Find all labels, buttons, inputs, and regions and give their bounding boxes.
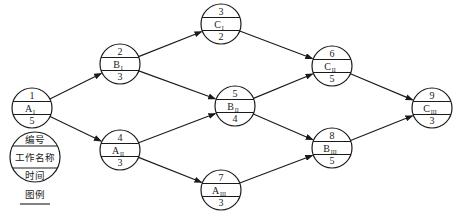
- node-id: 2: [118, 46, 123, 57]
- network-diagram: 1AI52BI33CI24AII35BII46CII57AIII38BIII59…: [0, 0, 470, 218]
- legend-caption: 图例: [25, 189, 45, 200]
- node-time: 3: [118, 157, 123, 168]
- legend-time-label: 时间: [25, 170, 45, 181]
- node-time: 4: [233, 113, 238, 124]
- arrow-3-to-6: [240, 31, 313, 58]
- arrow-4-to-7: [139, 157, 202, 182]
- node-3: 3CI2: [201, 4, 241, 44]
- arrow-5-to-8: [253, 114, 312, 140]
- node-2: 2BI3: [100, 44, 140, 84]
- arrow-5-to-6: [253, 74, 312, 98]
- arrow-7-to-8: [240, 155, 313, 182]
- node-5: 5BII4: [215, 86, 255, 126]
- node-8: 8BIII5: [312, 128, 352, 168]
- node-4: 4AII3: [100, 130, 140, 170]
- node-time: 5: [30, 115, 35, 126]
- arrow-1-to-2: [50, 73, 101, 99]
- node-id: 9: [430, 90, 435, 101]
- legend-work-name-label: 工作名称: [15, 152, 55, 163]
- legend: 编号 工作名称 时间 图例: [10, 132, 60, 204]
- arrow-2-to-5: [139, 71, 215, 99]
- node-time: 3: [118, 71, 123, 82]
- node-id: 8: [330, 130, 335, 141]
- node-9: 9CIII3: [412, 88, 452, 128]
- node-id: 5: [233, 88, 238, 99]
- node-id: 4: [118, 132, 123, 143]
- node-id: 7: [219, 172, 224, 183]
- node-time: 5: [330, 155, 335, 166]
- node-time: 2: [219, 31, 224, 42]
- nodes: 1AI52BI33CI24AII35BII46CII57AIII38BIII59…: [12, 4, 452, 210]
- node-id: 3: [219, 6, 224, 17]
- node-time: 3: [430, 115, 435, 126]
- node-7: 7AIII3: [201, 170, 241, 210]
- node-id: 1: [30, 90, 35, 101]
- node-time: 5: [330, 73, 335, 84]
- legend-id-label: 编号: [25, 134, 45, 145]
- node-6: 6CII5: [312, 46, 352, 86]
- node-time: 3: [219, 197, 224, 208]
- arrow-2-to-3: [139, 32, 202, 57]
- arrow-6-to-9: [350, 74, 412, 100]
- arrow-8-to-9: [351, 116, 413, 141]
- arrow-4-to-5: [139, 114, 216, 143]
- node-1: 1AI5: [12, 88, 52, 128]
- node-id: 6: [330, 48, 335, 59]
- arrow-1-to-4: [50, 117, 101, 141]
